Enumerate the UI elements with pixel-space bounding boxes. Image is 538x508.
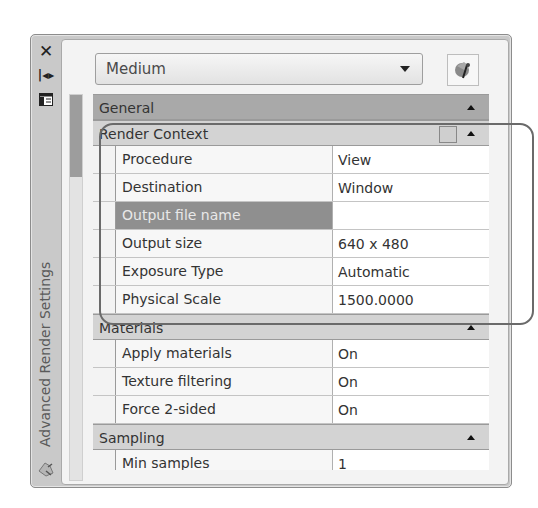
- property-value[interactable]: [333, 202, 489, 229]
- row-gutter: [93, 396, 116, 423]
- properties-icon[interactable]: [37, 91, 55, 107]
- row-gutter: [93, 340, 116, 367]
- section-label: Render Context: [99, 126, 208, 142]
- close-icon[interactable]: ✕: [37, 43, 55, 59]
- auto-hide-icon[interactable]: |◂▸: [37, 67, 55, 83]
- row-gutter: [93, 230, 116, 257]
- palette-logo-icon: [36, 459, 56, 479]
- scrollbar-thumb[interactable]: [70, 95, 82, 177]
- chevron-down-icon: [400, 66, 410, 72]
- property-value[interactable]: Window: [333, 174, 489, 201]
- row-gutter: [93, 174, 116, 201]
- section-label: Sampling: [99, 430, 165, 446]
- collapse-arrow-icon[interactable]: [467, 435, 475, 440]
- palette-title: Advanced Render Settings: [34, 147, 56, 447]
- row-gutter: [93, 368, 116, 395]
- property-value[interactable]: 1500.0000: [333, 286, 489, 313]
- render-presets-icon: [452, 59, 474, 81]
- property-label: Min samples: [116, 450, 333, 470]
- property-label: Exposure Type: [116, 258, 333, 285]
- property-row-min-samples[interactable]: Min samples 1: [93, 450, 489, 470]
- property-label: Texture filtering: [116, 368, 333, 395]
- property-row-output-size[interactable]: Output size 640 x 480: [93, 230, 489, 258]
- property-row-procedure[interactable]: Procedure View: [93, 146, 489, 174]
- palette-content: Medium General Render Context Procedure …: [61, 39, 509, 485]
- property-value[interactable]: Automatic: [333, 258, 489, 285]
- property-row-output-file-name[interactable]: Output file name: [93, 202, 489, 230]
- advanced-render-settings-palette: ✕ |◂▸ Advanced Render Settings Medium Ge…: [30, 34, 512, 488]
- property-label: Destination: [116, 174, 333, 201]
- section-general[interactable]: General: [93, 94, 489, 120]
- property-value[interactable]: View: [333, 146, 489, 173]
- row-gutter: [93, 286, 116, 313]
- section-label: General: [99, 100, 154, 116]
- vertical-scrollbar[interactable]: [69, 94, 83, 481]
- row-gutter: [93, 258, 116, 285]
- row-gutter: [93, 450, 116, 470]
- section-label: Materials: [99, 320, 163, 336]
- property-value[interactable]: 1: [333, 450, 489, 470]
- property-label: Procedure: [116, 146, 333, 173]
- property-row-exposure-type[interactable]: Exposure Type Automatic: [93, 258, 489, 286]
- property-label: Output file name: [116, 202, 333, 229]
- collapse-arrow-icon[interactable]: [467, 131, 475, 136]
- property-row-texture-filtering[interactable]: Texture filtering On: [93, 368, 489, 396]
- section-materials[interactable]: Materials: [93, 314, 489, 340]
- property-row-apply-materials[interactable]: Apply materials On: [93, 340, 489, 368]
- render-preset-value: Medium: [106, 60, 166, 78]
- property-label: Apply materials: [116, 340, 333, 367]
- property-label: Output size: [116, 230, 333, 257]
- property-row-destination[interactable]: Destination Window: [93, 174, 489, 202]
- property-label: Physical Scale: [116, 286, 333, 313]
- manage-render-presets-button[interactable]: [447, 54, 479, 86]
- render-context-icon[interactable]: [439, 126, 457, 143]
- collapse-arrow-icon[interactable]: [467, 105, 475, 110]
- section-render-context[interactable]: Render Context: [93, 120, 489, 146]
- row-gutter: [93, 202, 116, 229]
- section-sampling[interactable]: Sampling: [93, 424, 489, 450]
- property-label: Force 2-sided: [116, 396, 333, 423]
- collapse-arrow-icon[interactable]: [467, 325, 475, 330]
- property-value[interactable]: On: [333, 396, 489, 423]
- property-row-physical-scale[interactable]: Physical Scale 1500.0000: [93, 286, 489, 314]
- property-value[interactable]: On: [333, 340, 489, 367]
- property-grid: General Render Context Procedure View De…: [93, 94, 489, 470]
- palette-titlebar[interactable]: ✕ |◂▸ Advanced Render Settings: [31, 35, 61, 487]
- row-gutter: [93, 146, 116, 173]
- property-value[interactable]: 640 x 480: [333, 230, 489, 257]
- property-value[interactable]: On: [333, 368, 489, 395]
- property-row-force-2-sided[interactable]: Force 2-sided On: [93, 396, 489, 424]
- render-preset-dropdown[interactable]: Medium: [95, 53, 423, 85]
